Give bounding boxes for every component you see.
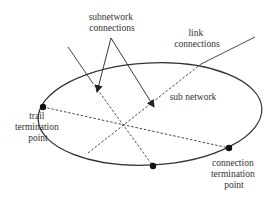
arrow-to-link-connection bbox=[111, 38, 154, 107]
subnetwork-connections-label: subnetwork connections bbox=[89, 12, 136, 33]
link-connection-line-dashed bbox=[88, 64, 201, 153]
arrow-to-solid-connection bbox=[97, 38, 111, 92]
subnetwork-ellipse bbox=[35, 57, 264, 171]
trail-termination-point-label: trail termination point bbox=[15, 111, 61, 143]
connection-termination-point-label: connection termination point bbox=[211, 158, 257, 190]
connection-termination-point-dot bbox=[226, 145, 232, 151]
subnetwork-connection-line-dashed bbox=[92, 82, 153, 166]
sub-network-label: sub network bbox=[170, 92, 217, 102]
link-connections-label: link connections bbox=[174, 28, 220, 49]
trail-termination-point-dot bbox=[40, 104, 46, 110]
subnetwork-diagram: subnetwork connections link connections … bbox=[0, 0, 277, 204]
bottom-termination-point-dot bbox=[150, 163, 156, 169]
